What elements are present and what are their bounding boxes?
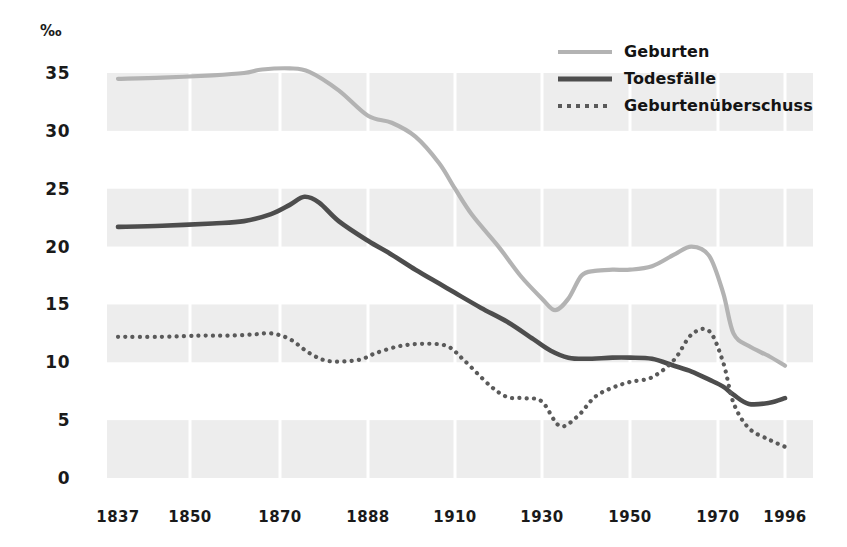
vertical-gridlines — [190, 73, 785, 478]
legend: GeburtenTodesfälleGeburtenüberschuss — [558, 38, 828, 119]
legend-item-label: Geburten — [624, 42, 709, 61]
grid-bands — [107, 73, 813, 478]
legend-item: Geburten — [558, 38, 828, 65]
legend-item-label: Geburtenüberschuss — [624, 96, 813, 115]
legend-line-swatch-icon — [558, 100, 612, 112]
legend-line-swatch-icon — [558, 73, 612, 85]
grid-band — [107, 304, 813, 362]
grid-band — [107, 420, 813, 478]
legend-item: Todesfälle — [558, 65, 828, 92]
line-chart: ‰ 05101520253035 18371850187018881910193… — [0, 0, 847, 547]
legend-item-label: Todesfälle — [624, 69, 716, 88]
legend-line-swatch-icon — [558, 46, 612, 58]
legend-item: Geburtenüberschuss — [558, 92, 828, 119]
